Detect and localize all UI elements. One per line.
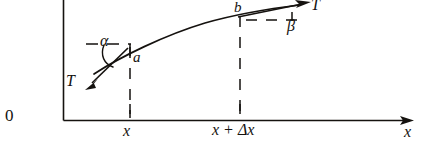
tick-label-x-plus-delta-x: x + Δx: [212, 122, 254, 138]
tension-right-label: T: [311, 0, 320, 13]
x-axis-label: x: [404, 124, 411, 140]
point-a-label: a: [133, 50, 141, 65]
tension-left-label: T: [66, 73, 75, 89]
curve: [94, 5, 300, 74]
point-b-label: b: [234, 0, 242, 15]
figure-canvas: [0, 0, 421, 145]
origin-label: 0: [5, 107, 14, 124]
tension-right-arrow-icon: [295, 0, 311, 8]
tick-label-x: x: [123, 123, 130, 139]
tension-left-arrow-icon: [85, 79, 98, 90]
angle-alpha-label: α: [100, 33, 108, 49]
angle-beta-label: β: [287, 18, 295, 34]
figure-container: 0 x x x + Δx a b T T α β: [0, 0, 421, 145]
